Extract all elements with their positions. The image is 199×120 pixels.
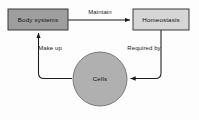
edge-label-required-by: Required by [127, 45, 160, 51]
edge-label-make-up: Make up [38, 45, 62, 51]
homeostasis-label: Homeostasis [142, 16, 179, 23]
make-up-arrow-line [39, 33, 73, 79]
cells-label: Cells [93, 75, 108, 82]
edge-label-maintain: Maintain [88, 9, 111, 15]
required-by-arrow-line [131, 30, 162, 79]
node-body-systems[interactable]: Body systems [8, 9, 68, 30]
node-homeostasis[interactable]: Homeostasis [133, 9, 189, 30]
edge-maintain: Maintain [68, 9, 130, 20]
diagram-svg: Maintain Required by Make up Body system… [0, 0, 199, 120]
edge-make-up: Make up [38, 33, 72, 79]
body-systems-label: Body systems [18, 16, 58, 23]
edge-required-by: Required by [127, 30, 161, 79]
node-cells[interactable]: Cells [73, 52, 127, 106]
diagram-canvas: Maintain Required by Make up Body system… [0, 0, 199, 120]
